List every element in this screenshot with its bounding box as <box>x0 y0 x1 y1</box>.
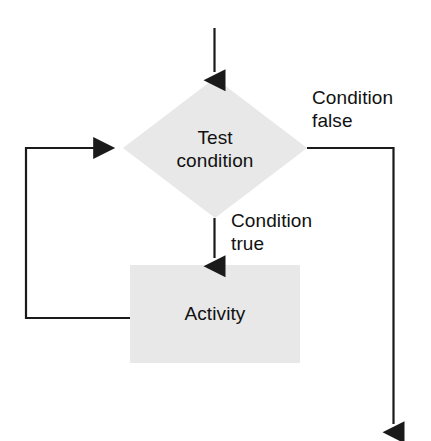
activity-rectangle-shape <box>130 265 300 363</box>
false-branch-arrow-line <box>307 148 394 424</box>
flowchart-canvas: Test condition Activity Condition false … <box>0 0 431 441</box>
loop-back-arrow-line <box>26 148 130 318</box>
decision-diamond-shape <box>123 78 307 218</box>
flowchart-graphics <box>0 0 431 441</box>
true-branch-label: Condition true <box>231 209 351 255</box>
false-branch-label: Condition false <box>312 86 430 132</box>
